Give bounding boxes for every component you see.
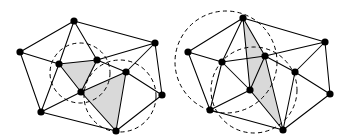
mesh-vertex: [291, 68, 298, 75]
mesh-edge: [116, 95, 162, 131]
mesh-edge: [265, 42, 325, 56]
mesh-edge: [59, 21, 74, 64]
mesh-edge: [97, 60, 126, 72]
mesh-vertex: [321, 38, 328, 45]
triangulation-diagram: [0, 0, 348, 140]
mesh-edge: [155, 43, 162, 95]
mesh-vertex: [37, 108, 44, 115]
mesh-vertex: [93, 56, 100, 63]
mesh-edges-layer: [20, 18, 330, 131]
mesh-vertex: [326, 90, 333, 97]
mesh-vertex: [158, 91, 165, 98]
mesh-edge: [20, 21, 74, 52]
mesh-edge: [222, 62, 250, 90]
mesh-edge: [188, 52, 210, 110]
mesh-edge: [74, 21, 155, 43]
mesh-edge: [325, 42, 330, 94]
mesh-edge: [283, 72, 295, 130]
mesh-vertex: [77, 88, 84, 95]
mesh-vertex: [151, 39, 158, 46]
mesh-edge: [265, 56, 295, 72]
mesh-edge: [210, 90, 250, 110]
mesh-vertex: [279, 126, 286, 133]
mesh-vertex: [112, 127, 119, 134]
figure-root: [0, 0, 348, 140]
mesh-vertex: [239, 14, 246, 21]
shaded-faces-layer: [59, 18, 283, 131]
mesh-edge: [295, 72, 330, 94]
mesh-vertex: [246, 86, 253, 93]
mesh-edge: [126, 72, 162, 95]
mesh-edge: [20, 52, 41, 112]
mesh-vertex: [206, 106, 213, 113]
mesh-vertex: [70, 17, 77, 24]
mesh-vertex: [122, 68, 129, 75]
mesh-vertex: [261, 52, 268, 59]
mesh-vertex: [184, 48, 191, 55]
mesh-edge: [283, 94, 330, 130]
mesh-edge: [20, 52, 59, 64]
mesh-vertex: [55, 60, 62, 67]
mesh-edge: [295, 42, 325, 72]
mesh-vertex: [218, 58, 225, 65]
mesh-vertex: [16, 48, 23, 55]
mesh-edge: [188, 52, 222, 62]
